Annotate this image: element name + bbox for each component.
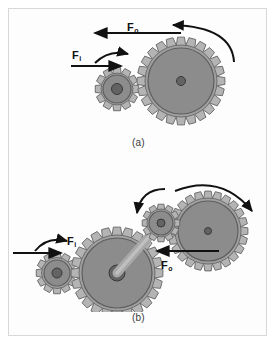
panel-b-illustration: [9, 181, 268, 312]
output-force-label: Fo: [127, 21, 138, 33]
input-force-label: Fi: [67, 235, 76, 247]
output-force-label: Fo: [161, 259, 172, 271]
small-input-gear: [95, 67, 138, 110]
panel-a-gears: [95, 37, 225, 125]
small-gear-rotation-arrow: [95, 53, 128, 63]
panel-b-caption: (b): [9, 312, 268, 323]
figure-frame: Fo Fi (a): [8, 8, 267, 336]
panel-b: Fi Fo (b): [9, 181, 268, 337]
gear-train-figure: Fo Fi (a): [0, 0, 275, 344]
panel-a-caption: (a): [9, 137, 268, 148]
small-input-gear-rotation-arrow: [35, 240, 67, 251]
large-output-gear: [137, 37, 225, 125]
large-output-gear: [168, 191, 248, 271]
input-force-label: Fi: [72, 49, 81, 61]
panel-a: Fo Fi (a): [9, 9, 268, 181]
